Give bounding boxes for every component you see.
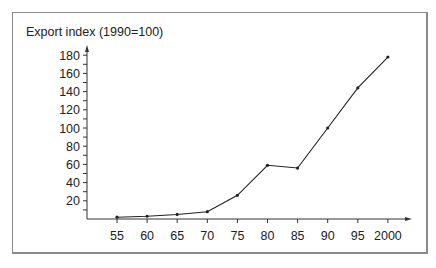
- y-tick-label: 120: [59, 103, 80, 117]
- data-point: [266, 164, 269, 167]
- data-point: [296, 166, 299, 169]
- data-point: [115, 216, 118, 219]
- data-point: [206, 210, 209, 213]
- x-tick-label: 90: [321, 229, 335, 243]
- data-series: [115, 55, 389, 218]
- data-point: [236, 194, 239, 197]
- y-tick-label: 40: [66, 176, 80, 190]
- data-point: [146, 215, 149, 218]
- x-tick-label: 70: [200, 229, 214, 243]
- y-axis-title: Export index (1990=100): [26, 25, 163, 39]
- x-tick-label: 2000: [374, 229, 402, 243]
- y-tick-label: 140: [59, 85, 80, 99]
- axes: [85, 45, 412, 221]
- line-chart: Export index (1990=100) 2040608010012014…: [0, 0, 436, 268]
- x-tick-label: 95: [351, 229, 365, 243]
- y-tick-label: 100: [59, 122, 80, 136]
- x-tick-label: 80: [261, 229, 275, 243]
- y-axis-arrow-icon: [85, 45, 89, 52]
- y-tick-label: 160: [59, 67, 80, 81]
- x-tick-label: 60: [140, 229, 154, 243]
- y-tick-label: 80: [66, 140, 80, 154]
- x-tick-label: 85: [291, 229, 305, 243]
- x-tick-label: 65: [170, 229, 184, 243]
- series-line: [117, 57, 388, 217]
- y-axis-ticks: 20406080100120140160180: [59, 49, 87, 210]
- data-point: [326, 126, 329, 129]
- data-point: [356, 86, 359, 89]
- x-tick-label: 75: [230, 229, 244, 243]
- y-tick-label: 60: [66, 158, 80, 172]
- y-tick-label: 180: [59, 49, 80, 63]
- x-axis-arrow-icon: [405, 217, 412, 221]
- data-point: [176, 213, 179, 216]
- x-axis-ticks: 5560657075808590952000: [110, 219, 402, 243]
- data-point: [386, 55, 389, 58]
- x-tick-label: 55: [110, 229, 124, 243]
- y-tick-label: 20: [66, 194, 80, 208]
